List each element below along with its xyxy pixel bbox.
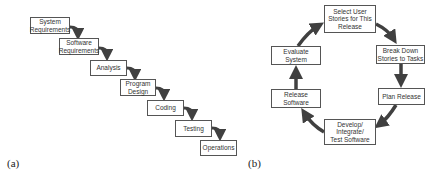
step-evaluate-system: Evaluate System — [271, 46, 321, 65]
step-system-requirements: System Requirements — [30, 17, 70, 34]
step-develop-integrate-test: Develop/ Integrate/ Test Software — [324, 119, 376, 145]
step-break-down-stories: Break Down Stories to Tasks — [376, 45, 425, 64]
cycle-arrows — [296, 24, 401, 132]
step-select-user-stories: Select User Stories for This Release — [324, 5, 376, 33]
arrow-icon — [212, 128, 220, 135]
arrow-icon — [298, 26, 318, 46]
arrow-icon — [156, 88, 164, 95]
arrow-icon — [70, 27, 78, 34]
step-analysis: Analysis — [90, 60, 127, 76]
arrow-icon — [184, 108, 192, 115]
arrow-icon — [376, 24, 393, 38]
step-coding: Coding — [147, 100, 184, 116]
arrow-icon — [127, 68, 135, 75]
arrow-icon — [305, 114, 324, 132]
step-operations: Operations — [200, 140, 237, 156]
caption-a: (a) — [7, 157, 19, 169]
arrow-icon — [99, 48, 107, 55]
arrow-icon — [380, 105, 396, 124]
step-release-software: Release Software — [271, 89, 321, 108]
caption-b: (b) — [248, 157, 261, 169]
step-testing: Testing — [175, 120, 212, 137]
step-plan-release: Plan Release — [378, 88, 425, 105]
step-software-requirements: Software Requirements — [59, 38, 99, 55]
step-program-design: Program Design — [120, 79, 156, 96]
